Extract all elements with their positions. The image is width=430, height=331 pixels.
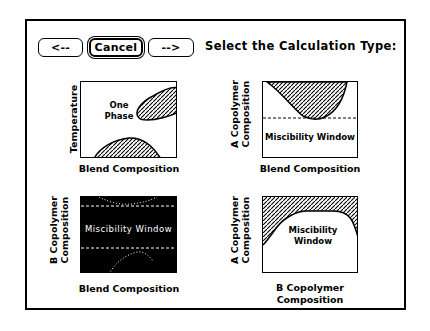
x-axis-label-line2: Composition [256,294,364,305]
y-axis-label: Temperature [69,79,79,159]
region-label-line2: Phase [99,111,139,121]
miscibility-graphic [263,197,358,273]
region-label-line2: Window [273,236,353,246]
y-axis-label-line2: Composition [241,190,251,270]
y-axis-label-line1: A Copolymer [230,74,240,154]
region-label: Miscibility Window [81,224,176,234]
miscibility-plot: Miscibility Window [262,81,358,158]
y-axis-label-line2: Composition [60,190,70,270]
x-axis-label-line1: B Copolymer [256,282,364,293]
miscibility-plot: Miscibility Window [262,196,358,273]
y-axis-label-line1: A Copolymer [230,190,240,270]
region-label-line1: Miscibility [273,225,353,235]
region-label-line1: One [99,100,139,110]
region-label: Miscibility Window [263,132,357,142]
phase-diagram-plot: One Phase [80,81,177,158]
x-axis-label: Blend Composition [256,163,364,174]
forward-button[interactable]: --> [148,38,194,57]
back-button[interactable]: <-- [38,38,83,57]
miscibility-graphic [81,197,177,273]
cancel-button[interactable]: Cancel [89,38,143,57]
dialog-title: Select the Calculation Type: [205,39,397,53]
x-axis-label: Blend Composition [75,163,183,174]
x-axis-label: Blend Composition [75,283,183,294]
miscibility-graphic [263,82,358,158]
y-axis-label-line2: Composition [241,74,251,154]
miscibility-plot-selected: Miscibility Window [80,196,177,273]
y-axis-label-line1: B Copolymer [49,190,59,270]
